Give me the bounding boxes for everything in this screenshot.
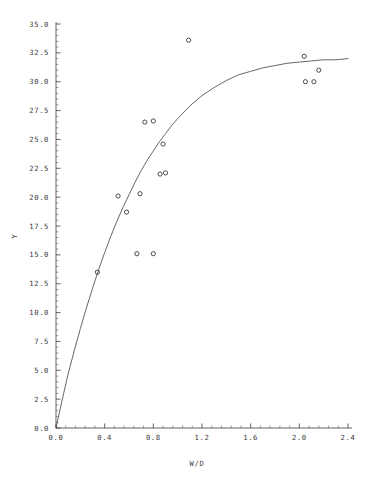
y-axis-ticks: [56, 24, 61, 428]
data-point-marker: [151, 119, 155, 123]
y-tick-label: 17.5: [29, 222, 49, 231]
y-axis-tick-labels: 0.02.55.07.510.012.515.017.520.022.525.0…: [29, 20, 49, 433]
data-point-marker: [317, 68, 321, 72]
y-tick-label: 35.0: [29, 20, 49, 29]
data-point-marker: [116, 194, 120, 198]
y-tick-label: 22.5: [29, 164, 49, 173]
x-axis-title: W/D: [190, 459, 205, 468]
data-point-marker: [151, 252, 155, 256]
y-tick-label: 7.5: [34, 337, 49, 346]
x-tick-label: 0.0: [49, 433, 64, 442]
y-tick-label: 32.5: [29, 48, 49, 57]
x-tick-label: 2.4: [341, 433, 356, 442]
data-point-marker: [124, 210, 128, 214]
data-points: [95, 38, 321, 274]
data-point-marker: [135, 252, 139, 256]
data-point-marker: [138, 192, 142, 196]
data-point-marker: [303, 80, 307, 84]
fit-curve-path: [56, 59, 348, 428]
data-point-marker: [187, 38, 191, 42]
x-tick-label: 2.0: [292, 433, 307, 442]
data-point-marker: [143, 120, 147, 124]
y-tick-label: 25.0: [29, 135, 49, 144]
y-tick-label: 12.5: [29, 279, 49, 288]
fitted-curve: [56, 59, 348, 428]
y-tick-label: 10.0: [29, 308, 49, 317]
data-point-marker: [302, 54, 306, 58]
y-tick-label: 0.0: [34, 424, 49, 433]
y-tick-label: 30.0: [29, 77, 49, 86]
x-axis-tick-labels: 0.00.40.81.21.62.02.4: [49, 433, 356, 442]
data-point-marker: [161, 142, 165, 146]
scatter-plot-canvas: 0.00.40.81.21.62.02.4 0.02.55.07.510.012…: [0, 0, 377, 482]
data-point-marker: [163, 171, 167, 175]
y-tick-label: 15.0: [29, 250, 49, 259]
x-axis-ticks: [56, 424, 348, 429]
y-tick-label: 5.0: [34, 366, 49, 375]
y-tick-label: 2.5: [34, 395, 49, 404]
y-tick-label: 20.0: [29, 193, 49, 202]
x-tick-label: 1.6: [243, 433, 258, 442]
x-tick-label: 1.2: [195, 433, 210, 442]
x-tick-label: 0.8: [146, 433, 161, 442]
y-tick-label: 27.5: [29, 106, 49, 115]
data-point-marker: [158, 172, 162, 176]
x-tick-label: 0.4: [97, 433, 112, 442]
data-point-marker: [312, 80, 316, 84]
chart-figure: 0.00.40.81.21.62.02.4 0.02.55.07.510.012…: [0, 0, 377, 482]
y-axis-title: Y: [10, 233, 19, 238]
